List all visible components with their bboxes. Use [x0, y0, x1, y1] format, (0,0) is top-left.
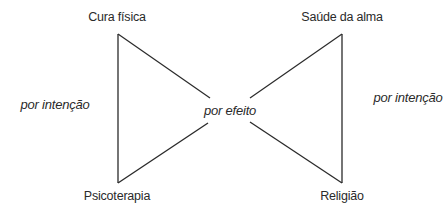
node-psicoterapia: Psicoterapia — [84, 189, 150, 203]
top-right-to-center-edge — [250, 34, 342, 98]
node-saude-da-alma: Saúde da alma — [301, 10, 383, 24]
bottom-right-to-center-edge — [250, 122, 342, 183]
edge-label-center: por efeito — [204, 103, 256, 118]
edge-label-right: por intenção — [373, 90, 442, 105]
top-left-to-center-edge — [118, 34, 210, 98]
bottom-left-to-center-edge — [118, 123, 208, 183]
node-cura-fisica: Cura física — [88, 10, 146, 24]
node-religiao: Religião — [320, 189, 364, 203]
edge-label-left: por intenção — [20, 97, 89, 112]
